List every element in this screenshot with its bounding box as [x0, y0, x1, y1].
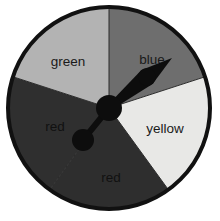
sector-label-red-left: red: [45, 119, 65, 134]
sector-label-green: green: [51, 54, 86, 69]
sector-label-red-right: red: [101, 170, 121, 185]
pointer-hub[interactable]: [96, 95, 122, 121]
spinner-wheel[interactable]: blue yellow red red green: [0, 0, 220, 221]
pointer-knob[interactable]: [72, 129, 94, 151]
sector-label-yellow: yellow: [146, 121, 184, 136]
pointer-bulge: [138, 68, 156, 86]
spinner-figure: blue yellow red red green: [0, 0, 220, 221]
